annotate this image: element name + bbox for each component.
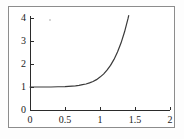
y-axis-tick-label: 4 (16, 13, 26, 23)
data-curve (30, 16, 129, 87)
y-axis-tick-label: 2 (16, 59, 26, 69)
x-axis-tick-label: 0 (28, 115, 33, 125)
x-axis-tick-label: 2 (168, 115, 173, 125)
x-axis-tick-label: 0.5 (59, 115, 72, 125)
y-axis-tick-label: 3 (16, 36, 26, 46)
figure-container: 00.511.52 01234 (0, 0, 184, 139)
tick-marks-group (30, 18, 170, 110)
x-axis-tick-label: 1 (98, 115, 103, 125)
y-axis-tick-label: 0 (16, 105, 26, 115)
axes-group (30, 16, 170, 110)
data-series-group (30, 16, 129, 87)
y-axis-tick-label: 1 (16, 82, 26, 92)
x-axis-tick-label: 1.5 (129, 115, 142, 125)
